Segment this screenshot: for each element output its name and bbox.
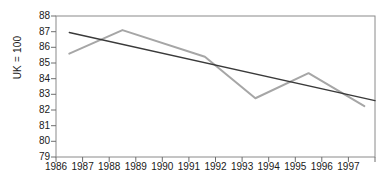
plot-frame [56, 16, 375, 157]
y-axis-ticks [51, 16, 56, 157]
chart-container: UK = 100 88 87 86 85 84 83 82 81 80 79 [0, 0, 388, 185]
plot-area [0, 0, 388, 185]
x-axis-tick-labels: 1986 1987 1988 1989 1990 1991 1992 1993 … [0, 161, 388, 177]
x-tick-label: 1997 [328, 161, 368, 172]
